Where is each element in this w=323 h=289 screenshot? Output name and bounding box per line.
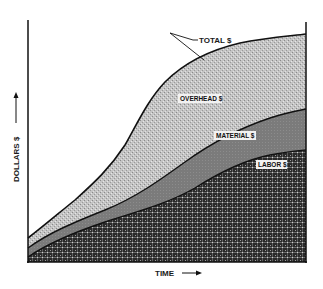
y-axis-label: DOLLARS $ <box>12 136 21 182</box>
y-axis-label-group: DOLLARS $ <box>12 92 21 182</box>
x-axis-label: TIME <box>155 269 175 278</box>
up-arrow-head <box>14 92 19 98</box>
overhead-label-group: OVERHEAD $ <box>178 94 223 103</box>
total-label: TOTAL $ <box>199 36 232 45</box>
right-arrow-head <box>196 271 202 276</box>
x-axis-label-group: TIME <box>155 269 202 278</box>
material-label: MATERIAL $ <box>216 132 255 140</box>
overhead-label: OVERHEAD $ <box>180 95 223 103</box>
stacked-area-diagram: TOTAL $ OVERHEAD $ MATERIAL $ LABOR $ DO… <box>0 0 323 289</box>
material-label-group: MATERIAL $ <box>214 131 256 140</box>
labor-label-group: LABOR $ <box>256 160 287 169</box>
labor-label: LABOR $ <box>258 161 287 169</box>
